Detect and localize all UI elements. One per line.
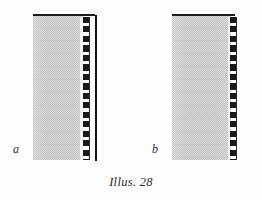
figure-a-edge-rule bbox=[95, 15, 97, 161]
figure-a-label: a bbox=[13, 143, 19, 155]
plate-caption: Illus. 28 bbox=[0, 175, 262, 190]
figure-a-vignette bbox=[33, 14, 83, 160]
figure-b bbox=[172, 14, 231, 160]
figure-b-dash-hairline bbox=[236, 17, 237, 160]
figure-a-dash-hairline bbox=[89, 17, 90, 160]
illustration-plate: a b Illus. 28 bbox=[0, 0, 262, 200]
figure-a-tonal-bands bbox=[33, 14, 83, 160]
figure-a-top-rule bbox=[33, 14, 95, 16]
figure-b-top-rule bbox=[172, 14, 235, 16]
figure-b-tonal-bands bbox=[172, 14, 231, 160]
figure-a bbox=[33, 14, 83, 160]
figure-b-vignette bbox=[172, 14, 231, 160]
figure-b-stipple-body bbox=[172, 14, 231, 160]
figure-b-label: b bbox=[152, 143, 158, 155]
figure-a-stipple-body bbox=[33, 14, 83, 160]
